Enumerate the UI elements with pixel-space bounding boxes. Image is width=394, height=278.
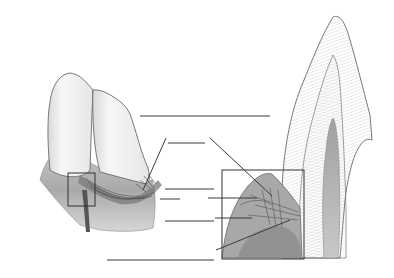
diagram-canvas bbox=[0, 0, 394, 278]
left-panel-incisors bbox=[40, 73, 162, 232]
label-leader-1b bbox=[210, 138, 272, 196]
right-panel-tooth-section bbox=[222, 16, 372, 259]
tooth-incisor-right bbox=[93, 90, 150, 184]
gingival-fibers-illustration bbox=[0, 0, 394, 278]
tooth-incisor-left bbox=[48, 73, 93, 177]
